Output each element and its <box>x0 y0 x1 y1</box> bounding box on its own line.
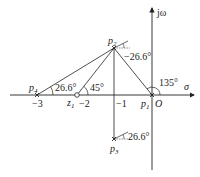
s-plane-diagram: jω σ O −3 −2 −1 p1 p2 p3 p4 z1 26.6° 45°… <box>0 0 200 177</box>
imag-axis-label: jω <box>156 7 167 18</box>
angle-label-p3-departure: 26.6° <box>128 131 150 142</box>
tick-label-neg2: −2 <box>79 98 90 109</box>
angle-arc-z1 <box>84 86 88 95</box>
angle-label-p4: 26.6° <box>55 82 77 93</box>
pole-label-p1: p1 <box>140 98 150 111</box>
departure-arc-p2 <box>123 44 124 49</box>
origin-label: O <box>155 98 162 109</box>
zero-label-z1: z1 <box>66 97 74 110</box>
departure-line-p3 <box>114 132 128 139</box>
angle-label-z1: 45° <box>90 82 104 93</box>
departure-arc-p3 <box>123 135 124 140</box>
tick-label-neg1: −1 <box>116 98 127 109</box>
zero-z1 <box>75 93 80 98</box>
pole-label-p3: p3 <box>109 143 119 156</box>
angle-label-p2-departure: −26.6° <box>124 51 151 62</box>
tick-label-neg3: −3 <box>32 98 43 109</box>
pole-label-p4: p4 <box>28 82 38 95</box>
angle-label-p1: 135° <box>159 77 178 88</box>
angle-arc-p4 <box>51 87 53 95</box>
real-axis-label: σ <box>184 81 190 92</box>
